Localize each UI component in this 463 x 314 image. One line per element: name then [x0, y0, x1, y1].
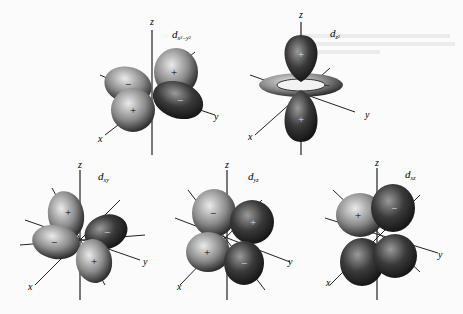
svg-text:−: −: [324, 80, 330, 91]
svg-text:y: y: [287, 256, 293, 267]
svg-text:y: y: [437, 249, 443, 260]
label-dxy: dxy: [98, 170, 109, 183]
svg-text:z: z: [224, 159, 229, 170]
svg-text:+: +: [204, 246, 210, 258]
svg-text:−: −: [104, 226, 110, 238]
svg-text:+: +: [65, 206, 71, 218]
svg-text:−: −: [210, 207, 216, 219]
svg-text:x: x: [176, 281, 182, 292]
svg-text:x: x: [325, 277, 331, 288]
sign-minus: −: [125, 78, 131, 90]
svg-text:x: x: [27, 281, 33, 292]
label-dx2-y2: dx²−y²: [172, 28, 191, 41]
svg-text:+: +: [298, 48, 304, 60]
svg-text:z: z: [374, 157, 379, 168]
svg-text:+: +: [355, 209, 361, 221]
svg-text:−: −: [51, 236, 57, 248]
svg-text:x: x: [97, 133, 103, 144]
svg-text:+: +: [91, 255, 97, 267]
label-dyz: dyz: [248, 170, 259, 183]
svg-text:z: z: [77, 159, 82, 170]
orbital-dyz: − + + − z y x: [175, 159, 293, 300]
label-dz2: dz²: [330, 27, 340, 40]
svg-text:x: x: [247, 131, 253, 142]
orbital-dz2: + + − z y x: [247, 9, 370, 155]
sign-plus: +: [171, 66, 177, 78]
orbital-dxz: + − z y x: [325, 157, 443, 300]
orbital-diagram: − + − + z y x dx²−y² + + − z y x dz² + −: [0, 0, 463, 314]
orbital-dx2-y2: − + − + z y x: [97, 16, 219, 155]
sign-minus: −: [177, 94, 183, 106]
label-dxz: dxz: [405, 168, 416, 181]
svg-text:y: y: [142, 256, 148, 267]
svg-text:−: −: [391, 202, 397, 214]
svg-text:z: z: [149, 16, 154, 27]
svg-text:+: +: [250, 216, 256, 228]
svg-text:y: y: [213, 111, 219, 122]
svg-text:−: −: [241, 257, 247, 269]
svg-text:y: y: [364, 109, 370, 120]
orbital-dxy: + − − + z y x: [20, 159, 148, 300]
svg-text:z: z: [298, 9, 303, 20]
svg-text:+: +: [298, 113, 304, 125]
sign-plus: +: [130, 104, 136, 116]
